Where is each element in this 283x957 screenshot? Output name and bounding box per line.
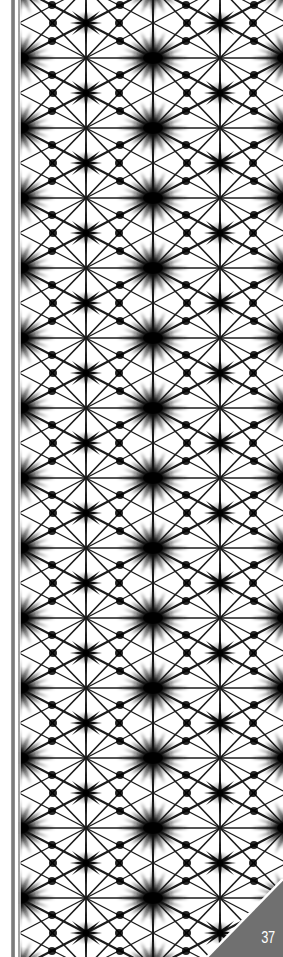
- star-grid-pattern-graphic: [18, 0, 283, 957]
- spine-bar: [11, 0, 15, 957]
- book-page: 37: [0, 0, 283, 957]
- page-corner-tab: 37: [207, 879, 283, 957]
- shibori-pattern: [18, 0, 283, 957]
- page-number: 37: [262, 929, 275, 947]
